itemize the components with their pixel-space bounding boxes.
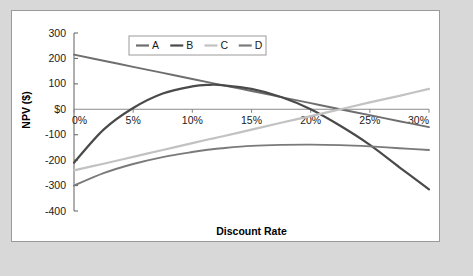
y-axis-tick-label: -300 <box>45 179 66 191</box>
legend-label-b: B <box>186 39 193 51</box>
y-axis-tick-label: 200 <box>48 52 66 64</box>
x-axis-title: Discount Rate <box>216 225 287 237</box>
y-axis-tick-label: -200 <box>45 154 66 166</box>
x-axis-tick-label: 10% <box>182 114 203 126</box>
y-axis-title: NPV ($) <box>20 91 32 128</box>
y-axis-tick-label: -100 <box>45 128 66 140</box>
x-axis-tick-label: 0% <box>72 114 87 126</box>
legend-label-c: C <box>221 39 229 51</box>
series-line-d <box>74 145 429 186</box>
x-axis-tick-label: 15% <box>241 114 262 126</box>
chart-plot-area: 300200100$0-100-200-300-4000%5%10%15%20%… <box>12 11 441 243</box>
chart-legend: ABCD <box>129 36 266 55</box>
legend-label-a: A <box>152 39 159 51</box>
series-line-c <box>74 89 429 170</box>
legend-label-d: D <box>255 39 263 51</box>
chart-figure-frame: 300200100$0-100-200-300-4000%5%10%15%20%… <box>11 10 440 242</box>
npv-line-chart: 300200100$0-100-200-300-4000%5%10%15%20%… <box>12 11 441 243</box>
x-axis-tick-label: 5% <box>126 114 141 126</box>
y-axis-tick-label: $0 <box>54 103 66 115</box>
y-axis-tick-label: -400 <box>45 205 66 217</box>
y-axis-tick-label: 300 <box>48 27 66 39</box>
y-axis-tick-label: 100 <box>48 77 66 89</box>
